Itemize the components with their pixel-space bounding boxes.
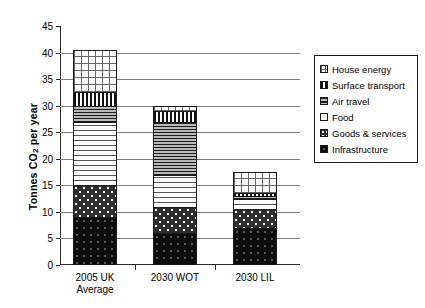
y-axis-tick bbox=[56, 53, 60, 54]
y-axis-tick-label: 45 bbox=[42, 21, 53, 32]
legend-item-food[interactable]: Food bbox=[320, 109, 413, 125]
legend-item-label: Infrastructure bbox=[332, 144, 388, 155]
y-axis-tick-label: 15 bbox=[42, 180, 53, 191]
plot-area: 454035302520151050 bbox=[60, 26, 300, 265]
legend-item-surface[interactable]: Surface transport bbox=[320, 77, 413, 93]
y-axis-tick-label: 5 bbox=[47, 233, 53, 244]
legend-item-house[interactable]: House energy bbox=[320, 61, 413, 77]
bar-segment-surface[interactable] bbox=[73, 92, 117, 105]
y-axis-tick bbox=[56, 106, 60, 107]
bar-segment-food[interactable] bbox=[233, 199, 277, 210]
y-axis-tick-label: 30 bbox=[42, 100, 53, 111]
y-axis-tick-label: 20 bbox=[42, 153, 53, 164]
bar-segment-infra[interactable] bbox=[233, 228, 277, 265]
bar-segment-infra[interactable] bbox=[153, 233, 197, 265]
legend-item-label: Goods & services bbox=[332, 128, 406, 139]
bar-segment-food[interactable] bbox=[73, 122, 117, 186]
y-axis-tick-label: 35 bbox=[42, 74, 53, 85]
y-axis-tick bbox=[56, 132, 60, 133]
x-axis-tick-label: 2030 LIL bbox=[200, 272, 310, 284]
legend-swatch-air-icon bbox=[320, 97, 328, 105]
x-axis-tick-label-line: 2030 LIL bbox=[200, 272, 310, 284]
bar-segment-air[interactable] bbox=[73, 106, 117, 122]
y-axis-tick bbox=[56, 185, 60, 186]
legend-swatch-house-icon bbox=[320, 65, 328, 73]
bar-segment-infra[interactable] bbox=[73, 217, 117, 265]
legend-swatch-food-icon bbox=[320, 113, 328, 121]
bar-2005-uk-average[interactable] bbox=[73, 50, 117, 265]
y-axis-title: Tonnes CO2 per year bbox=[27, 72, 40, 242]
bar-segment-house[interactable] bbox=[233, 172, 277, 193]
y-axis-title-post: per year bbox=[27, 103, 39, 149]
y-axis-tick-label: 40 bbox=[42, 47, 53, 58]
bar-2030-wot[interactable] bbox=[153, 106, 197, 265]
legend-swatch-goods-icon bbox=[320, 129, 328, 137]
x-axis-tick bbox=[135, 265, 136, 270]
bar-segment-food[interactable] bbox=[153, 175, 197, 207]
bar-segment-goods[interactable] bbox=[73, 185, 117, 217]
stacked-bar-chart: Tonnes CO2 per year 454035302520151050 2… bbox=[0, 0, 425, 308]
bar-segment-surface[interactable] bbox=[153, 111, 197, 122]
y-axis-tick bbox=[56, 238, 60, 239]
y-axis-line bbox=[60, 26, 61, 265]
legend-swatch-infra-icon bbox=[320, 145, 328, 153]
legend-item-label: Surface transport bbox=[332, 80, 405, 91]
bar-segment-air[interactable] bbox=[153, 122, 197, 175]
y-axis-tick bbox=[56, 265, 60, 266]
y-axis-tick bbox=[56, 159, 60, 160]
bar-segment-goods[interactable] bbox=[153, 207, 197, 234]
x-axis-tick bbox=[215, 265, 216, 270]
x-axis-tick-label-line: Average bbox=[40, 284, 150, 296]
legend-swatch-surface-icon bbox=[320, 81, 328, 89]
legend-item-label: Air travel bbox=[332, 96, 369, 107]
chart-legend: House energySurface transportAir travelF… bbox=[314, 55, 418, 163]
legend-item-air[interactable]: Air travel bbox=[320, 93, 413, 109]
bar-segment-house[interactable] bbox=[73, 50, 117, 92]
y-axis-title-sub: 2 bbox=[31, 148, 40, 153]
legend-item-infra[interactable]: Infrastructure bbox=[320, 141, 413, 157]
bar-2030-lil[interactable] bbox=[233, 172, 277, 265]
legend-item-label: Food bbox=[332, 112, 354, 123]
bar-segment-goods[interactable] bbox=[233, 209, 277, 228]
y-axis-tick bbox=[56, 79, 60, 80]
y-axis-tick-label: 10 bbox=[42, 206, 53, 217]
legend-item-goods[interactable]: Goods & services bbox=[320, 125, 413, 141]
y-axis-tick-label: 0 bbox=[47, 260, 53, 271]
y-axis-tick-label: 25 bbox=[42, 127, 53, 138]
y-axis-tick bbox=[56, 26, 60, 27]
legend-item-label: House energy bbox=[332, 64, 391, 75]
y-axis-tick bbox=[56, 212, 60, 213]
y-axis-title-pre: Tonnes CO bbox=[27, 153, 39, 210]
